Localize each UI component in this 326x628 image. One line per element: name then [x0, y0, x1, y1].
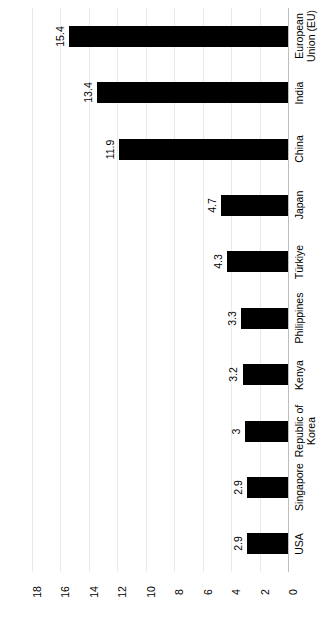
- bar-chart: (RM15,956.34 million), 2022 15.413.411.9…: [0, 0, 326, 628]
- x-tick-2: 2: [260, 581, 271, 603]
- category-label-8: Singapore: [294, 458, 320, 516]
- value-label-8: 2.9: [232, 474, 243, 500]
- bar-7: [245, 421, 288, 442]
- category-label-5: Philippines: [294, 289, 320, 347]
- bar-8: [247, 477, 288, 498]
- plot-area: 15.413.411.94.74.33.33.232.92.9: [32, 8, 288, 572]
- bar-9: [247, 533, 288, 554]
- bar-2: [119, 139, 288, 160]
- category-label-7: Republic of Korea: [294, 402, 320, 460]
- value-label-2: 11.9: [104, 136, 115, 162]
- category-axis-labels: European Union (EU)IndiaChinaJapanTürkiy…: [288, 8, 326, 572]
- bar-1: [97, 82, 288, 103]
- bar-3: [221, 195, 288, 216]
- bar-0: [69, 26, 288, 47]
- value-label-9: 2.9: [232, 531, 243, 557]
- x-tick-18: 18: [32, 581, 43, 603]
- category-label-4: Türkiye: [294, 233, 320, 291]
- category-label-0: European Union (EU): [294, 7, 320, 65]
- bar-4: [227, 251, 288, 272]
- x-tick-8: 8: [174, 581, 185, 603]
- value-label-0: 15.4: [54, 23, 65, 49]
- x-tick-12: 12: [117, 581, 128, 603]
- value-label-4: 4.3: [212, 249, 223, 275]
- x-tick-0: 0: [288, 581, 299, 603]
- bar-6: [243, 364, 289, 385]
- value-label-3: 4.7: [207, 192, 218, 218]
- x-tick-4: 4: [231, 581, 242, 603]
- gridline-18: [32, 8, 33, 572]
- x-tick-14: 14: [89, 581, 100, 603]
- category-label-6: Kenya: [294, 346, 320, 404]
- value-label-5: 3.3: [227, 305, 238, 331]
- category-label-3: Japan: [294, 176, 320, 234]
- x-tick-6: 6: [203, 581, 214, 603]
- x-tick-16: 16: [60, 581, 71, 603]
- category-label-9: USA: [294, 515, 320, 573]
- gridline-16: [60, 8, 61, 572]
- x-tick-10: 10: [146, 581, 157, 603]
- x-axis-tick-labels: 024681012141618: [32, 576, 288, 610]
- bar-5: [241, 308, 288, 329]
- value-label-1: 13.4: [83, 80, 94, 106]
- value-label-6: 3.2: [228, 362, 239, 388]
- value-label-7: 3: [231, 418, 242, 444]
- category-label-1: India: [294, 64, 320, 122]
- category-label-2: China: [294, 120, 320, 178]
